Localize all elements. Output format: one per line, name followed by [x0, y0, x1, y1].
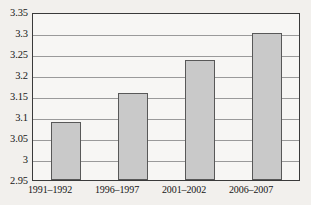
bar-1991-1992 [51, 122, 81, 180]
bar-2006-2007 [252, 33, 282, 180]
y-tick-label: 3.05 [0, 134, 28, 145]
plot-area [32, 13, 300, 181]
y-tick-label: 3 [0, 155, 28, 166]
y-tick-label: 3.2 [0, 71, 28, 82]
y-tick-label: 3.3 [0, 29, 28, 40]
y-tick-label: 3.1 [0, 113, 28, 124]
y-tick-label: 3.25 [0, 50, 28, 61]
y-tick-label: 3.35 [0, 8, 28, 19]
bar-2001-2002 [185, 60, 215, 180]
bar-1996-1997 [118, 93, 148, 180]
y-tick-label: 3.15 [0, 92, 28, 103]
bar-chart: 3.35 3.3 3.25 3.2 3.15 3.1 3.05 3 2.95 1… [0, 0, 311, 205]
x-tick-label-2006-2007: 2006–2007 [211, 185, 291, 195]
